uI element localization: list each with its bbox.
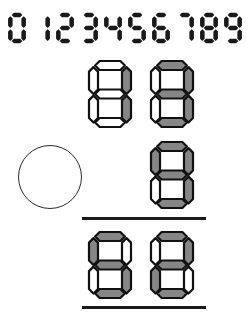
segment-c (117, 16, 122, 28)
segment-b (151, 67, 160, 94)
segment-a (95, 61, 125, 70)
segment-g (84, 39, 95, 44)
segment-g (60, 39, 71, 44)
strip-digit-4 (101, 11, 125, 45)
segment-f (122, 96, 131, 123)
operand-digit-tens[interactable] (86, 58, 134, 130)
segment-d (95, 261, 125, 270)
segment-g (157, 118, 187, 127)
result-digit-tens[interactable] (86, 229, 134, 301)
strip-digit-0 (5, 11, 29, 45)
segment-d (156, 26, 167, 31)
segment-d (84, 26, 95, 31)
segment-e (89, 96, 98, 123)
segment-g (156, 39, 167, 44)
segment-c (213, 16, 218, 28)
segment-b (151, 238, 160, 265)
segment-b (151, 148, 160, 175)
segment-c (184, 67, 193, 94)
segment-e (200, 29, 205, 41)
segment-f (122, 267, 131, 294)
segment-d (157, 171, 187, 180)
segment-d (95, 90, 125, 99)
segment-b (152, 16, 157, 28)
segment-c (45, 16, 50, 28)
segment-a (180, 13, 191, 18)
segment-f (165, 29, 170, 41)
strip-digit-1 (29, 11, 53, 45)
segment-a (157, 232, 187, 241)
strip-digit-7 (173, 11, 197, 45)
segment-f (45, 29, 50, 41)
segment-f (237, 29, 242, 41)
segment-b (104, 16, 109, 28)
segment-d (108, 26, 119, 31)
segment-a (12, 13, 23, 18)
segment-d (157, 261, 187, 270)
segment-f (184, 96, 193, 123)
segment-c (237, 16, 242, 28)
segment-e (152, 29, 157, 41)
segment-g (157, 289, 187, 298)
segment-f (21, 29, 26, 41)
strip-digit-5 (125, 11, 149, 45)
operand-digit-ones[interactable] (148, 58, 196, 130)
segment-d (60, 26, 71, 31)
segment-b (128, 16, 133, 28)
segment-f (184, 177, 193, 204)
segment-e (56, 29, 61, 41)
segment-c (184, 148, 193, 175)
segment-e (151, 177, 160, 204)
segment-g (95, 289, 125, 298)
operator-circle[interactable] (18, 145, 82, 209)
segment-f (93, 29, 98, 41)
segment-f (189, 29, 194, 41)
digit-reference-strip (0, 8, 250, 48)
segment-c (21, 16, 26, 28)
segment-g (204, 39, 215, 44)
segment-e (8, 29, 13, 41)
segment-a (228, 13, 239, 18)
segment-d (228, 26, 239, 31)
fraction-rule-top (82, 217, 206, 220)
segment-c (122, 238, 131, 265)
segment-e (151, 96, 160, 123)
result-digit-ones[interactable] (148, 229, 196, 301)
segment-g (95, 118, 125, 127)
segment-a (60, 13, 71, 18)
strip-digit-6 (149, 11, 173, 45)
segment-c (189, 16, 194, 28)
segment-a (95, 232, 125, 241)
worksheet-canvas (0, 0, 250, 324)
segment-b (89, 67, 98, 94)
segment-f (213, 29, 218, 41)
segment-f (141, 29, 146, 41)
segment-a (157, 142, 187, 151)
segment-c (69, 16, 74, 28)
segment-g (157, 199, 187, 208)
segment-d (157, 90, 187, 99)
segment-e (89, 267, 98, 294)
segment-a (156, 13, 167, 18)
segment-f (184, 267, 193, 294)
segment-g (12, 39, 23, 44)
segment-b (89, 238, 98, 265)
operand2-digit-ones[interactable] (148, 139, 196, 211)
strip-digit-8 (197, 11, 221, 45)
segment-a (132, 13, 143, 18)
strip-digit-2 (53, 11, 77, 45)
segment-c (122, 67, 131, 94)
segment-c (184, 238, 193, 265)
strip-digit-9 (221, 11, 245, 45)
segment-f (117, 29, 122, 41)
segment-b (8, 16, 13, 28)
segment-a (84, 13, 95, 18)
segment-g (228, 39, 239, 44)
fraction-rule-bottom (82, 306, 206, 309)
segment-c (93, 16, 98, 28)
segment-b (200, 16, 205, 28)
segment-b (224, 16, 229, 28)
segment-d (132, 26, 143, 31)
strip-digit-3 (77, 11, 101, 45)
segment-d (204, 26, 215, 31)
